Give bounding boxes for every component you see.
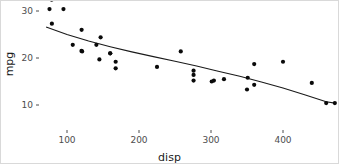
y-axis-title: mpg	[3, 52, 16, 77]
data-point	[333, 101, 337, 105]
data-point	[50, 0, 54, 2]
data-point	[97, 57, 101, 61]
data-points-group	[44, 0, 337, 105]
data-point	[114, 66, 118, 70]
data-point	[61, 7, 65, 11]
data-point	[155, 65, 159, 69]
smooth-trend-line	[46, 27, 335, 103]
data-point	[179, 49, 183, 53]
data-point	[310, 81, 314, 85]
x-tick-label: 300	[202, 135, 219, 145]
data-point	[108, 51, 112, 55]
y-axis-ticks: 302010	[22, 6, 39, 110]
data-point	[246, 76, 250, 80]
x-tick-label: 100	[58, 135, 75, 145]
data-point	[94, 43, 98, 47]
data-point	[245, 87, 249, 91]
data-point	[80, 28, 84, 32]
data-point	[210, 79, 214, 83]
x-tick-label: 400	[274, 135, 291, 145]
chart-root: 100200300400 302010 disp mpg	[0, 0, 339, 164]
data-point	[191, 69, 195, 73]
y-tick-label: 20	[22, 53, 34, 63]
x-tick-label: 200	[130, 135, 147, 145]
data-point	[99, 35, 103, 39]
data-point	[71, 43, 75, 47]
data-point	[324, 101, 328, 105]
data-point	[50, 22, 54, 26]
x-axis-ticks: 100200300400	[58, 130, 291, 145]
y-tick-label: 30	[22, 6, 34, 16]
data-point	[114, 60, 118, 64]
scatter-plot-svg: 100200300400 302010 disp mpg	[0, 0, 339, 164]
y-tick-label: 10	[22, 100, 34, 110]
data-point	[222, 77, 226, 81]
data-point	[47, 7, 51, 11]
data-point	[252, 62, 256, 66]
data-point	[252, 83, 256, 87]
x-axis-title: disp	[158, 151, 181, 164]
data-point	[80, 49, 84, 53]
data-point	[191, 73, 195, 77]
data-point	[191, 78, 195, 82]
loess-smooth-curve	[46, 27, 335, 103]
data-point	[281, 60, 285, 64]
